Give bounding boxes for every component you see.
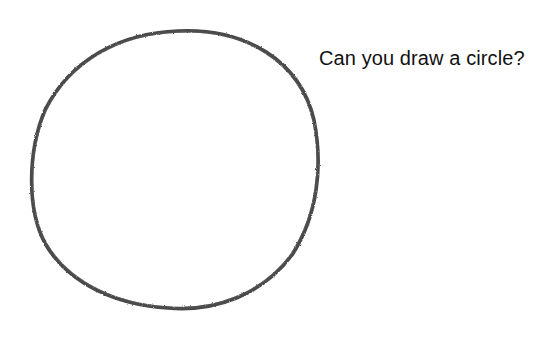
prompt-text: Can you draw a circle? — [319, 47, 525, 70]
canvas: Can you draw a circle? — [0, 0, 555, 338]
